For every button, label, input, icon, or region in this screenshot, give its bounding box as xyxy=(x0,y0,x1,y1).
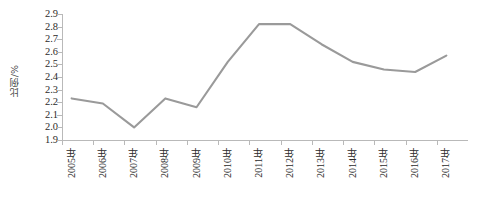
y-tick-mark xyxy=(57,90,62,91)
y-tick-mark xyxy=(57,39,62,40)
y-tick-mark xyxy=(57,127,62,128)
x-tick-mark xyxy=(249,141,250,145)
x-tick-mark xyxy=(374,141,375,145)
x-tick-label: 2008年 xyxy=(159,148,171,194)
x-tick-label: 2010年 xyxy=(222,148,234,194)
x-tick-label: 2017年 xyxy=(440,148,452,194)
y-tick-label: 2.0 xyxy=(26,121,58,132)
y-tick-mark xyxy=(57,64,62,65)
data-line-ratio xyxy=(72,24,447,127)
y-tick-label: 1.9 xyxy=(26,134,58,145)
x-tick-label: 2015年 xyxy=(378,148,390,194)
y-tick-label: 2.4 xyxy=(26,71,58,82)
x-tick-mark xyxy=(218,141,219,145)
x-tick-mark xyxy=(62,141,63,145)
x-tick-mark xyxy=(406,141,407,145)
plot-area xyxy=(62,14,468,140)
x-tick-mark xyxy=(187,141,188,145)
line-series-svg xyxy=(62,14,468,140)
x-tick-mark xyxy=(281,141,282,145)
x-tick-mark xyxy=(437,141,438,145)
x-tick-label: 2007年 xyxy=(128,148,140,194)
x-tick-label: 2011年 xyxy=(253,148,265,194)
x-tick-mark xyxy=(93,141,94,145)
x-tick-mark xyxy=(124,141,125,145)
x-tick-label: 2016年 xyxy=(409,148,421,194)
x-tick-label: 2006年 xyxy=(97,148,109,194)
x-tick-label: 2014年 xyxy=(347,148,359,194)
chart-screenshot: 比例/% 2.92.82.72.62.52.42.32.22.12.01.9 2… xyxy=(0,0,479,198)
y-tick-mark xyxy=(57,102,62,103)
y-tick-mark xyxy=(57,14,62,15)
x-tick-label: 2009年 xyxy=(191,148,203,194)
x-tick-label: 2013年 xyxy=(315,148,327,194)
y-tick-label: 2.1 xyxy=(26,109,58,120)
y-tick-label: 2.3 xyxy=(26,84,58,95)
x-axis-line xyxy=(62,140,468,141)
y-tick-mark xyxy=(57,52,62,53)
y-axis-title-text: 比例/% xyxy=(8,65,22,97)
y-tick-label: 2.8 xyxy=(26,21,58,32)
y-tick-mark xyxy=(57,27,62,28)
y-tick-mark xyxy=(57,77,62,78)
x-tick-mark xyxy=(343,141,344,145)
x-tick-mark xyxy=(156,141,157,145)
y-tick-label: 2.9 xyxy=(26,8,58,19)
x-tick-label: 2005年 xyxy=(66,148,78,194)
y-tick-label: 2.5 xyxy=(26,58,58,69)
y-tick-label: 2.7 xyxy=(26,33,58,44)
y-tick-label: 2.6 xyxy=(26,46,58,57)
y-axis-title: 比例/% xyxy=(4,48,26,114)
x-tick-mark xyxy=(312,141,313,145)
y-axis-tick-labels: 2.92.82.72.62.52.42.32.22.12.01.9 xyxy=(26,8,58,146)
y-tick-mark xyxy=(57,115,62,116)
y-tick-label: 2.2 xyxy=(26,96,58,107)
x-tick-label: 2012年 xyxy=(284,148,296,194)
